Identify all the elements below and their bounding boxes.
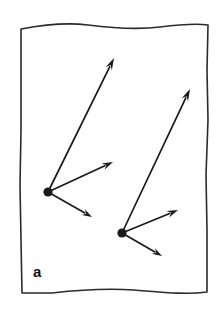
vertex-left <box>43 187 52 196</box>
figure-panel-a: a <box>0 0 223 309</box>
diagram-canvas: a <box>0 0 223 309</box>
vertex-right <box>117 228 126 237</box>
panel-label: a <box>33 263 42 280</box>
